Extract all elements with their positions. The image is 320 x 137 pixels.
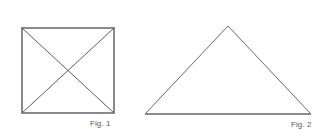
figure-1-caption: Fig. 1 <box>90 119 111 129</box>
figure-2-triangle <box>145 26 311 114</box>
figures-canvas <box>0 0 320 137</box>
figure-2-caption: Fig. 2 <box>291 120 312 130</box>
triangle-right-side <box>228 26 311 114</box>
triangle-left-side <box>145 26 228 114</box>
figure-1-square-with-diagonals <box>22 28 114 113</box>
